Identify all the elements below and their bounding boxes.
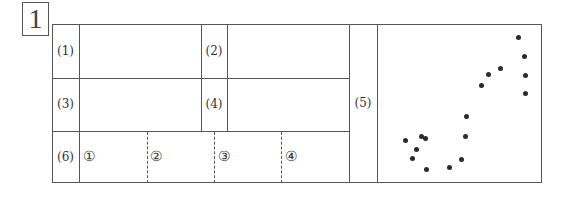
subanswer-2: ② bbox=[150, 148, 163, 164]
scatter-dot bbox=[479, 83, 484, 88]
dashed-divider-3 bbox=[281, 132, 282, 183]
scatter-dot bbox=[447, 165, 452, 170]
scatter-dot bbox=[463, 134, 468, 139]
label-6: (6) bbox=[52, 150, 79, 164]
label-3: (3) bbox=[52, 97, 79, 111]
answer-cell-3[interactable] bbox=[80, 79, 200, 130]
subanswer-4: ④ bbox=[285, 148, 298, 164]
label-4: (4) bbox=[201, 97, 227, 111]
label-2: (2) bbox=[201, 44, 227, 58]
scatter-dot bbox=[486, 72, 491, 77]
scatter-dot bbox=[423, 136, 428, 141]
subanswer-3: ③ bbox=[218, 148, 231, 164]
scatter-dot bbox=[522, 54, 527, 59]
label-1: (1) bbox=[52, 44, 79, 58]
scatter-dot bbox=[523, 73, 528, 78]
scatter-dot bbox=[403, 138, 408, 143]
scatter-dot bbox=[498, 66, 503, 71]
scatter-dot bbox=[414, 147, 419, 152]
answer-cell-1[interactable] bbox=[80, 25, 200, 77]
question-number-box: 1 bbox=[22, 2, 49, 36]
scatter-dot bbox=[464, 114, 469, 119]
label-5: (5) bbox=[349, 96, 377, 110]
subanswer-1: ① bbox=[83, 148, 96, 164]
scatter-dot bbox=[410, 156, 415, 161]
dashed-divider-2 bbox=[214, 132, 215, 183]
answer-cell-4[interactable] bbox=[228, 79, 348, 130]
scatter-dot bbox=[516, 35, 521, 40]
row2-divider bbox=[52, 131, 349, 132]
answer-cell-2[interactable] bbox=[228, 25, 348, 77]
scatter-dot bbox=[523, 91, 528, 96]
dashed-divider-1 bbox=[147, 132, 148, 183]
scatter-dot bbox=[424, 167, 429, 172]
